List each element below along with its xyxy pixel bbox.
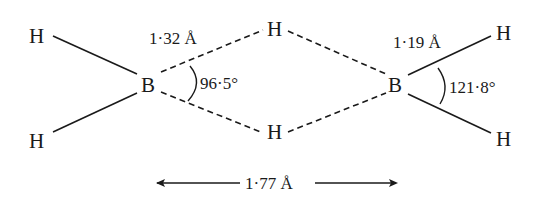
- atom-h-bridge-top: H: [267, 17, 282, 41]
- bridge-bond-length-label: 1·32 Å: [149, 29, 197, 48]
- atom-b-right: B: [388, 73, 402, 97]
- terminal-bond-left-top: [53, 36, 137, 74]
- bridge-angle-label: 96·5°: [200, 74, 238, 93]
- atom-b-left: B: [141, 73, 155, 97]
- terminal-bond-left-bottom: [53, 93, 137, 132]
- atom-h-right-bottom: H: [496, 127, 511, 151]
- b-b-distance-label: 1·77 Å: [245, 174, 293, 193]
- terminal-angle-arc: [438, 68, 445, 104]
- terminal-angle-label: 121·8°: [449, 78, 495, 97]
- terminal-bond-length-label: 1·19 Å: [393, 33, 441, 52]
- bridge-bond-left-bottom: [161, 92, 263, 133]
- atom-h-left-bottom: H: [29, 129, 44, 153]
- terminal-bond-right-bottom: [408, 94, 491, 133]
- atom-h-right-top: H: [496, 21, 511, 45]
- diborane-structure-diagram: H H B H H B H H 1·32 Å 96·5° 1·19 Å 121·…: [0, 0, 536, 199]
- atom-h-left-top: H: [29, 24, 44, 48]
- atom-h-bridge-bottom: H: [267, 120, 282, 144]
- bridge-angle-arc: [188, 66, 197, 101]
- bridge-bond-right-bottom: [288, 93, 386, 132]
- bridge-bond-right-top: [288, 31, 386, 74]
